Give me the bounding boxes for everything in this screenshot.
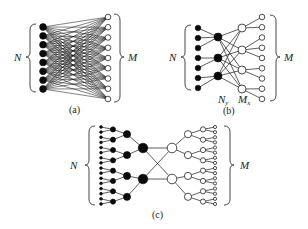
output-node (105, 76, 111, 82)
input-node (195, 65, 201, 71)
input-node (40, 32, 47, 39)
panel-b-edges (198, 17, 262, 99)
right-layer-node (213, 131, 216, 134)
panel-a-fully-connected: N M (a) (13, 14, 138, 116)
left-layer-node (100, 162, 103, 165)
left-layer-node (138, 174, 148, 184)
panel-a-left-brace (26, 24, 36, 92)
output-node (105, 35, 111, 41)
panel-c-edges (101, 127, 215, 204)
right-layer-node (213, 197, 216, 200)
hidden-right-node (238, 85, 246, 93)
panel-a-edges (43, 17, 108, 99)
panel-c-nodes (100, 125, 217, 205)
left-layer-node (110, 147, 115, 152)
input-node (40, 24, 47, 31)
panel-a-caption: (a) (69, 104, 80, 116)
left-layer-node (110, 127, 115, 132)
input-node (195, 45, 201, 51)
output-node (259, 86, 265, 92)
input-node (40, 68, 47, 75)
output-node (105, 14, 111, 20)
output-node (259, 96, 265, 102)
output-node (259, 35, 265, 41)
output-node (259, 55, 265, 61)
panel-a-input-label: N (13, 51, 22, 63)
right-layer-node (213, 146, 216, 149)
panel-c-right-brace (224, 126, 234, 205)
right-layer-node (200, 127, 205, 132)
right-layer-node (184, 193, 191, 200)
left-layer-node (123, 131, 130, 138)
right-layer-node (213, 161, 216, 164)
left-layer-node (100, 131, 103, 134)
right-layer-node (200, 168, 205, 173)
right-layer-node (184, 172, 191, 179)
input-node (195, 35, 201, 41)
left-layer-node (100, 177, 103, 180)
right-layer-node (167, 143, 177, 153)
input-node (40, 59, 47, 66)
panel-a-output-label: M (127, 51, 138, 63)
panel-b-left-brace (181, 25, 191, 90)
left-layer-node (100, 156, 103, 159)
left-layer-node (123, 151, 130, 158)
left-layer-node (138, 143, 148, 153)
output-node (105, 86, 111, 92)
hidden-left-node (214, 54, 222, 62)
output-node (259, 45, 265, 51)
right-layer-node (213, 151, 216, 154)
panel-b-two-stage: N M Ny Mx (b) (168, 14, 294, 117)
output-node (259, 76, 265, 82)
panel-b-caption: (b) (223, 105, 235, 117)
left-layer-node (100, 126, 103, 129)
left-layer-node (110, 178, 115, 183)
panel-a-right-brace (114, 14, 124, 102)
panel-b-right-brace (270, 15, 280, 101)
left-layer-node (100, 187, 103, 190)
output-node (105, 65, 111, 71)
left-layer-node (100, 146, 103, 149)
right-layer-node (167, 174, 177, 184)
left-layer-node (100, 141, 103, 144)
hidden-left-node (214, 72, 222, 80)
input-node (195, 75, 201, 81)
panel-c-caption: (c) (152, 209, 163, 221)
right-layer-node (213, 125, 216, 128)
right-layer-node (213, 202, 216, 205)
hidden-left-node (214, 33, 222, 41)
panel-c-left-brace (85, 126, 95, 205)
right-layer-node (213, 166, 216, 169)
right-layer-node (200, 189, 205, 194)
right-layer-node (213, 192, 216, 195)
output-node (259, 65, 265, 71)
right-layer-node (213, 136, 216, 139)
right-layer-node (200, 178, 205, 183)
right-layer-node (200, 147, 205, 152)
left-layer-node (100, 203, 103, 206)
hidden-right-node (238, 46, 246, 54)
output-node (105, 24, 111, 30)
right-layer-node (213, 187, 216, 190)
output-node (105, 96, 111, 102)
hidden-right-node (238, 24, 246, 32)
input-node (40, 50, 47, 57)
right-layer-node (200, 137, 205, 142)
left-layer-node (123, 172, 130, 179)
left-layer-node (100, 172, 103, 175)
right-layer-node (213, 156, 216, 159)
left-layer-node (110, 168, 115, 173)
panel-b-hidden-right-label: Mx (237, 93, 251, 107)
right-layer-node (184, 131, 191, 138)
panel-c-tree-network: N M (c) (69, 125, 250, 221)
left-layer-node (100, 151, 103, 154)
right-layer-node (184, 151, 191, 158)
panel-b-input-label: N (168, 51, 177, 63)
left-layer-node (110, 137, 115, 142)
right-layer-node (200, 158, 205, 163)
left-layer-node (100, 182, 103, 185)
input-node (195, 85, 201, 91)
input-node (40, 86, 47, 93)
network-figure: N M (a) N M Ny Mx (b) N M (c) (0, 0, 308, 229)
right-layer-node (213, 172, 216, 175)
